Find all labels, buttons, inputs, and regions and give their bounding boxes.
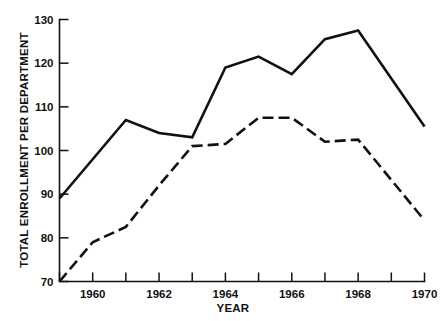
x-tick-label: 1960 <box>80 288 106 300</box>
series-solid <box>60 30 425 198</box>
series-dashed <box>60 118 425 282</box>
plot-axes <box>60 20 425 282</box>
x-axis-ticks <box>60 273 425 282</box>
y-tick-label: 120 <box>34 57 53 69</box>
line-chart-canvas: 708090100110120130 196019621964196619681… <box>0 0 446 321</box>
y-tick-label: 70 <box>41 276 54 288</box>
y-axis-ticks <box>60 20 69 282</box>
y-tick-label: 110 <box>35 101 54 113</box>
x-tick-label: 1966 <box>279 288 305 300</box>
y-axis-tick-labels: 708090100110120130 <box>34 14 53 288</box>
x-tick-label: 1970 <box>412 288 438 300</box>
y-tick-label: 80 <box>41 232 54 244</box>
x-tick-label: 1968 <box>345 288 371 300</box>
x-tick-label: 1962 <box>146 288 172 300</box>
y-tick-label: 90 <box>41 188 54 200</box>
y-axis-title: TOTAL ENROLLMENT PER DEPARTMENT <box>18 32 30 267</box>
x-axis-tick-labels: 196019621964196619681970 <box>80 288 437 300</box>
data-series <box>60 30 425 281</box>
x-axis-title: YEAR <box>217 302 250 314</box>
x-tick-label: 1964 <box>213 288 239 300</box>
y-tick-label: 130 <box>34 14 53 26</box>
y-tick-label: 100 <box>34 145 53 157</box>
chart-figure: 708090100110120130 196019621964196619681… <box>0 0 446 321</box>
axis-spine <box>60 20 425 282</box>
